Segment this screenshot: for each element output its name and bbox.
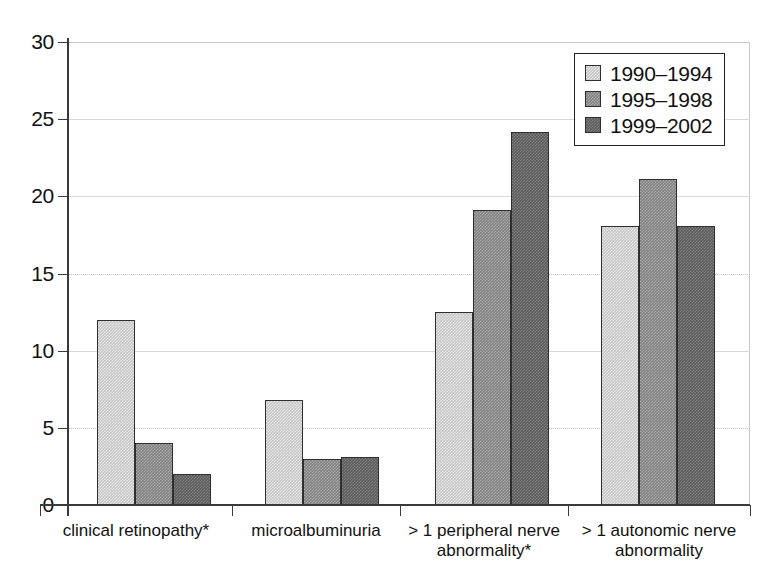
legend-item: 1995–1998: [585, 86, 712, 112]
bar: [639, 179, 677, 505]
x-axis-tick-mark: [232, 505, 233, 516]
bar: [265, 400, 303, 505]
bar: [303, 459, 341, 505]
bar: [341, 457, 379, 505]
legend-swatch-icon: [585, 91, 601, 107]
x-axis-tick-mark: [400, 505, 401, 516]
bar: [435, 312, 473, 505]
x-axis-category-label-line: abnormality: [549, 541, 769, 561]
x-axis-tick-mark: [40, 505, 41, 516]
legend-item-label: 1990–1994: [610, 63, 712, 84]
bar: [511, 132, 549, 505]
x-axis-category-label: > 1 autonomic nerveabnormality: [549, 521, 769, 561]
legend: 1990–19941995–19981999–2002: [574, 53, 725, 146]
bar: [677, 226, 715, 505]
legend-swatch-icon: [585, 117, 601, 133]
x-axis-category-label-line: > 1 autonomic nerve: [549, 521, 769, 541]
legend-swatch-icon: [585, 65, 601, 81]
y-axis-line: [67, 38, 69, 516]
bar: [97, 320, 135, 505]
bar: [601, 226, 639, 505]
x-axis-line: [40, 504, 750, 506]
x-axis-tick-mark: [750, 505, 751, 516]
legend-item: 1990–1994: [585, 60, 712, 86]
x-axis-tick-mark: [568, 505, 569, 516]
bar: [173, 474, 211, 505]
legend-item: 1999–2002: [585, 112, 712, 138]
bar: [473, 210, 511, 505]
legend-item-label: 1999–2002: [610, 115, 712, 136]
bar-chart: 302520151050 clinical retinopathy*microa…: [0, 0, 779, 582]
legend-item-label: 1995–1998: [610, 89, 712, 110]
bar: [135, 443, 173, 505]
